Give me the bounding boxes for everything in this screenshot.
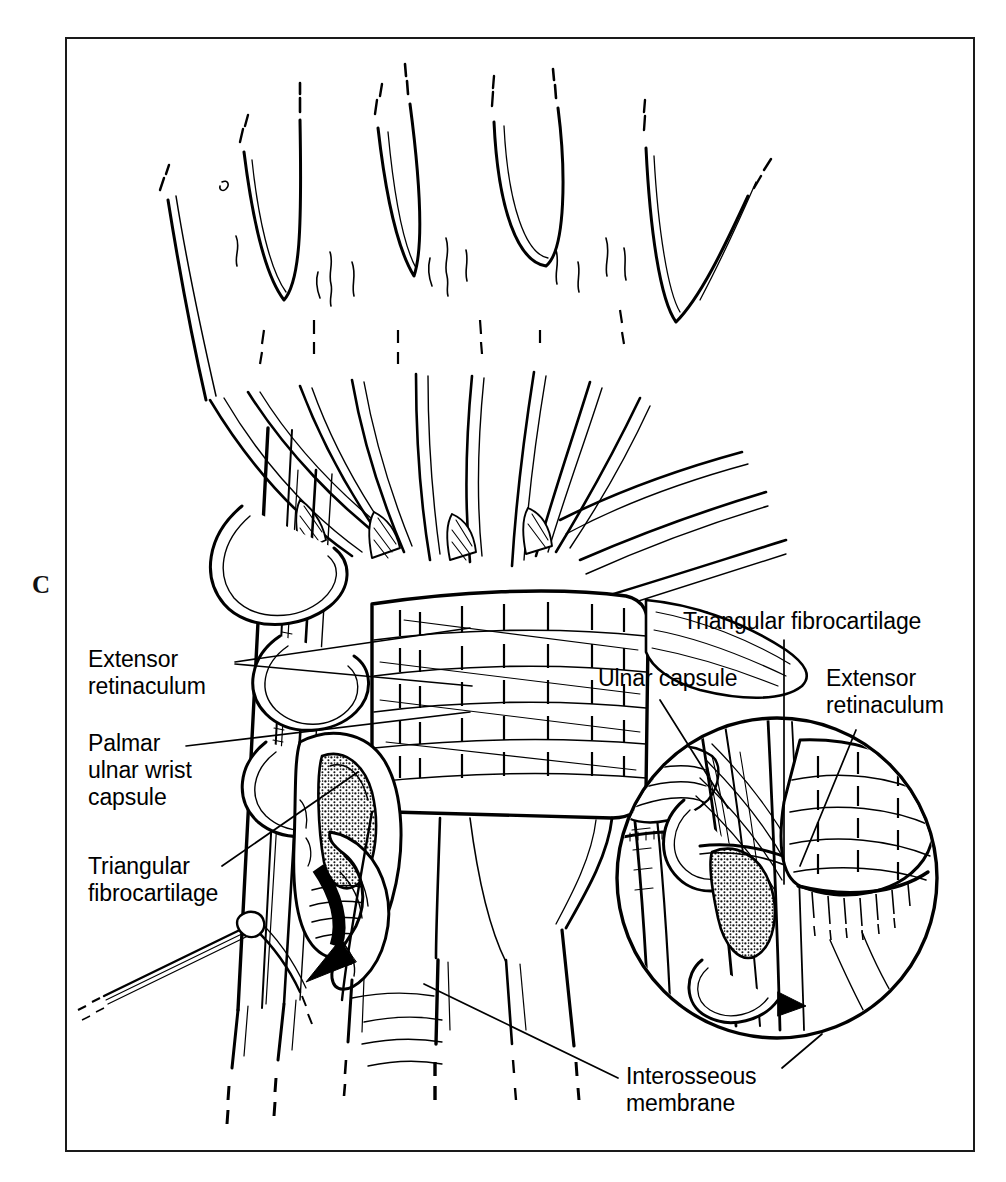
- label-extensor-retinaculum-inset: Extensor retinaculum: [826, 665, 944, 719]
- label-interosseous-membrane: Interosseous membrane: [626, 1063, 757, 1117]
- label-extensor-retinaculum-left: Extensor retinaculum: [88, 646, 206, 700]
- label-triangular-fibrocartilage-inset: Triangular fibrocartilage: [683, 608, 921, 635]
- label-ulnar-capsule: Ulnar capsule: [598, 665, 737, 692]
- plate-frame: [65, 37, 975, 1152]
- figure-root: C: [0, 0, 1006, 1182]
- label-palmar-ulnar-wrist-capsule: Palmar ulnar wrist capsule: [88, 730, 192, 811]
- panel-letter: C: [24, 572, 58, 597]
- label-triangular-fibrocartilage-left: Triangular fibrocartilage: [88, 853, 218, 907]
